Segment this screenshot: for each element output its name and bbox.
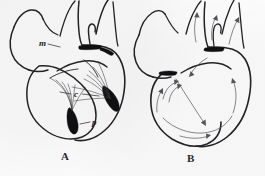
label-m: m <box>39 39 46 48</box>
leader-p <box>80 122 90 124</box>
panel-a-group <box>10 0 124 141</box>
panel-b-caption: B <box>187 152 195 164</box>
panel-a-caption: A <box>61 150 69 162</box>
leader-m <box>48 44 60 47</box>
panel-a-vessels <box>14 0 118 46</box>
label-c: c <box>74 90 78 99</box>
label-p: p <box>92 118 97 127</box>
anatomical-figure-plate: m c p A B <box>0 0 265 176</box>
panel-b-group <box>134 0 250 147</box>
heart-diagram-svg <box>0 0 265 176</box>
panel-b-vessels <box>139 0 244 48</box>
panel-b-outline <box>134 35 250 147</box>
